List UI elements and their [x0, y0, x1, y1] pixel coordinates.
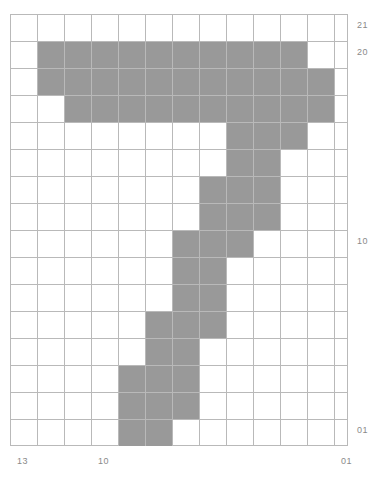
grid-cell — [254, 42, 280, 68]
grid-cell — [119, 96, 145, 122]
x-tick-label: 13 — [17, 456, 28, 466]
grid-cell — [119, 42, 145, 68]
grid-cell — [119, 69, 145, 95]
grid-cell — [227, 123, 253, 149]
grid-cell — [227, 42, 253, 68]
y-tick-label: 10 — [357, 236, 368, 246]
x-tick-label: 01 — [341, 456, 352, 466]
grid-cell — [146, 393, 172, 419]
grid-cell — [173, 69, 199, 95]
grid-cell — [281, 69, 307, 95]
grid-cell — [119, 366, 145, 392]
grid-cell — [173, 258, 199, 284]
y-tick-label: 20 — [357, 47, 368, 57]
grid-cell — [254, 96, 280, 122]
grid-cell — [173, 285, 199, 311]
grid-cell — [308, 96, 334, 122]
grid-cell — [146, 312, 172, 338]
grid-cell — [173, 42, 199, 68]
y-tick-label: 21 — [357, 20, 368, 30]
grid-cell — [200, 285, 226, 311]
grid-cell — [146, 420, 172, 446]
grid-cell — [119, 420, 145, 446]
grid-cell — [65, 69, 91, 95]
grid-cell — [308, 69, 334, 95]
grid-cell — [200, 231, 226, 257]
y-tick-label: 01 — [357, 425, 368, 435]
grid-cell — [146, 366, 172, 392]
grid-cell — [146, 42, 172, 68]
grid-cell — [146, 339, 172, 365]
grid-cell — [200, 177, 226, 203]
grid-cell — [38, 69, 64, 95]
grid-cell — [146, 69, 172, 95]
grid-cell — [200, 42, 226, 68]
grid-cell — [227, 177, 253, 203]
grid-cell — [173, 393, 199, 419]
grid-cell — [92, 69, 118, 95]
grid-cell — [119, 393, 145, 419]
grid-cell — [281, 96, 307, 122]
grid-cell — [146, 96, 172, 122]
grid-cell — [227, 96, 253, 122]
filled-cell-layer — [10, 14, 348, 446]
grid-cell — [254, 69, 280, 95]
grid-cell — [200, 69, 226, 95]
grid-cell — [200, 204, 226, 230]
grid-cell — [254, 150, 280, 176]
grid-cell — [173, 366, 199, 392]
grid-cell — [227, 204, 253, 230]
grid-cell — [173, 231, 199, 257]
grid-cell — [92, 42, 118, 68]
grid-cell — [200, 96, 226, 122]
grid-cell — [200, 258, 226, 284]
grid-cell — [254, 177, 280, 203]
figure-canvas: 21201001 131001 — [0, 0, 382, 479]
grid-cell — [227, 231, 253, 257]
grid-cell — [65, 42, 91, 68]
x-tick-label: 10 — [98, 456, 109, 466]
grid-plot-area[interactable] — [10, 14, 348, 446]
grid-cell — [227, 69, 253, 95]
grid-cell — [254, 204, 280, 230]
grid-cell — [92, 96, 118, 122]
grid-cell — [227, 150, 253, 176]
grid-cell — [173, 312, 199, 338]
grid-cell — [281, 42, 307, 68]
grid-cell — [200, 312, 226, 338]
grid-cell — [254, 123, 280, 149]
grid-cell — [38, 42, 64, 68]
grid-cell — [281, 123, 307, 149]
grid-cell — [173, 339, 199, 365]
grid-cell — [65, 96, 91, 122]
grid-cell — [173, 96, 199, 122]
